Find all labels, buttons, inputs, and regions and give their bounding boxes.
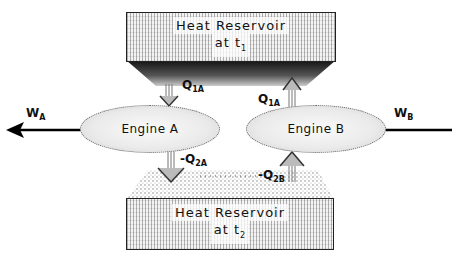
bottom-reservoir-top-face (126, 170, 334, 200)
q-prefix: -Q (180, 152, 195, 166)
label-wb: WB (394, 106, 413, 122)
bottom-reservoir-temp-prefix: at t (214, 222, 240, 237)
q-prefix: -Q (258, 168, 273, 182)
top-reservoir-temperature: at t1 (212, 34, 250, 57)
label-q1a-into-engine-a: Q1A (182, 78, 204, 94)
engine-a-label: Engine A (121, 122, 178, 136)
engine-b-label: Engine B (287, 122, 344, 136)
w-prefix: W (26, 106, 39, 120)
q-subscript: 2B (273, 175, 285, 184)
bottom-reservoir-temperature: at t2 (211, 221, 249, 244)
w-prefix: W (394, 106, 407, 120)
w-subscript: B (407, 113, 413, 122)
label-wa: WA (26, 106, 45, 122)
bottom-heat-reservoir: Heat Reservoir at t2 (126, 198, 334, 250)
label-q2b: -Q2B (258, 168, 285, 184)
engine-a: Engine A (80, 105, 220, 153)
label-q2a: -Q2A (180, 152, 207, 168)
q-subscript: 1A (192, 85, 204, 94)
top-reservoir-title: Heat Reservoir (173, 17, 289, 34)
top-heat-reservoir: Heat Reservoir at t1 (126, 12, 336, 62)
top-reservoir-temp-index: 1 (241, 44, 247, 53)
engine-b: Engine B (246, 105, 386, 153)
w-subscript: A (39, 113, 45, 122)
top-reservoir-underside (126, 60, 336, 86)
label-q1a-from-engine-b: Q1A (258, 92, 280, 108)
q-prefix: Q (258, 92, 268, 106)
heat-flow-arrow-q1a-into-engine-a (160, 84, 178, 106)
work-arrow-wa (6, 122, 82, 138)
bottom-reservoir-title: Heat Reservoir (172, 204, 288, 221)
q-subscript: 1A (268, 99, 280, 108)
top-reservoir-temp-prefix: at t (215, 35, 241, 50)
q-prefix: Q (182, 78, 192, 92)
q-subscript: 2A (195, 159, 207, 168)
bottom-reservoir-temp-index: 2 (240, 231, 246, 240)
